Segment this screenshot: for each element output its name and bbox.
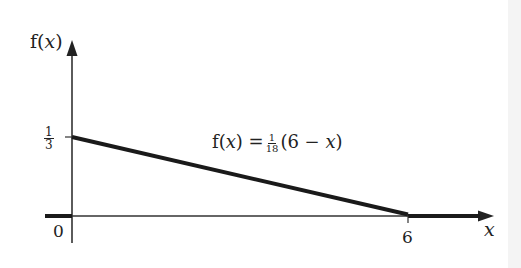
y-tick-label: 13: [44, 126, 54, 151]
x-tick-label-six: 6: [402, 227, 413, 247]
origin-label: 0: [53, 221, 64, 241]
y-axis-arrow-icon: [67, 40, 78, 56]
page-edge: [508, 0, 521, 268]
pdf-diagram: f(x) 13 f(x) =118(6 − x) 0 6 x: [0, 0, 521, 268]
formula-annotation: f(x) =118(6 − x): [212, 131, 343, 154]
x-axis-label: x: [484, 218, 495, 240]
y-axis-label: f(x): [30, 30, 63, 52]
